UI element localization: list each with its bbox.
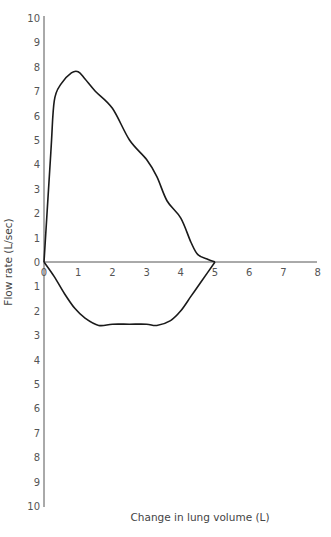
y-tick-label: 10 [27, 13, 40, 24]
flow-volume-chart: 10987654321012345678910 012345678 Flow r… [0, 0, 331, 537]
y-tick-label: 3 [34, 184, 40, 195]
x-tick-label: 0 [41, 267, 47, 278]
x-tick-label: 3 [143, 267, 149, 278]
y-tick-label: 1 [34, 233, 40, 244]
y-tick-label: 8 [34, 452, 40, 463]
y-tick-label: 0 [34, 257, 40, 268]
y-tick-label: 4 [34, 355, 40, 366]
y-tick-label: 8 [34, 62, 40, 73]
y-tick-label: 4 [34, 159, 40, 170]
x-tick-label: 5 [212, 267, 218, 278]
y-tick-label: 9 [34, 37, 40, 48]
y-tick-label: 7 [34, 428, 40, 439]
y-tick-label: 2 [34, 208, 40, 219]
y-tick-label: 3 [34, 330, 40, 341]
x-tick-label: 4 [178, 267, 184, 278]
inspiration-curve [44, 262, 215, 326]
y-tick-labels: 10987654321012345678910 [27, 13, 40, 512]
y-tick-label: 7 [34, 86, 40, 97]
x-tick-label: 7 [280, 267, 286, 278]
x-axis-label: Change in lung volume (L) [131, 511, 270, 523]
x-tick-label: 2 [109, 267, 115, 278]
y-axis-label: Flow rate (L/sec) [2, 218, 14, 305]
x-tick-label: 1 [75, 267, 81, 278]
y-tick-label: 5 [34, 379, 40, 390]
y-tick-label: 6 [34, 111, 40, 122]
expiration-curve [44, 71, 215, 262]
y-tick-label: 9 [34, 477, 40, 488]
x-tick-label: 8 [314, 267, 320, 278]
y-tick-label: 10 [27, 501, 40, 512]
y-tick-label: 2 [34, 306, 40, 317]
x-tick-label: 6 [246, 267, 252, 278]
y-tick-label: 6 [34, 403, 40, 414]
y-tick-label: 5 [34, 135, 40, 146]
x-tick-labels: 012345678 [41, 267, 321, 278]
y-tick-label: 1 [34, 281, 40, 292]
